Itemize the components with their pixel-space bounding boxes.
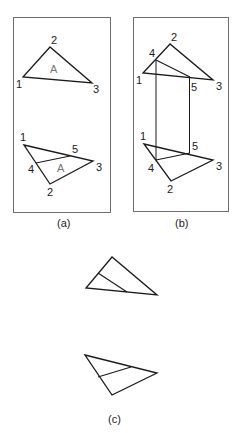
b-top-vertex-4: 4: [149, 48, 155, 59]
b-bottom-vertex-1: 1: [140, 131, 146, 142]
panel-c-bottom-triangle: [85, 355, 157, 395]
panel-b-bottom-line-4-5: [156, 153, 190, 160]
a-bottom-vertex-2: 2: [47, 187, 53, 198]
b-top-vertex-1: 1: [136, 75, 142, 86]
caption-a: (a): [57, 218, 70, 229]
a-bottom-vertex-5: 5: [72, 144, 78, 155]
panel-a-frame: [14, 18, 111, 213]
caption-b: (b): [175, 218, 188, 229]
b-top-vertex-2: 2: [171, 32, 177, 43]
caption-c: (c): [108, 414, 121, 425]
b-bottom-vertex-5: 5: [192, 141, 198, 152]
panel-a-line-4-5: [36, 156, 70, 163]
panel-b-bottom-triangle: [144, 144, 213, 181]
a-top-vertex-2: 2: [51, 35, 57, 46]
b-bottom-vertex-3: 3: [216, 161, 222, 172]
panel-b-frame: [134, 18, 229, 212]
panel-c-bottom-inner-line: [98, 367, 131, 377]
panel-c-top-triangle: [86, 257, 157, 295]
b-top-vertex-3: 3: [216, 81, 222, 92]
a-bottom-area-label: A: [57, 163, 64, 174]
b-bottom-vertex-2: 2: [167, 184, 173, 195]
a-top-area-label: A: [50, 64, 57, 75]
panel-a-top-triangle: [23, 47, 92, 83]
b-top-vertex-5: 5: [191, 82, 197, 93]
b-bottom-vertex-4: 4: [148, 163, 154, 174]
a-bottom-vertex-3: 3: [96, 162, 102, 173]
a-bottom-vertex-4: 4: [28, 164, 34, 175]
a-bottom-vertex-1: 1: [20, 132, 26, 143]
diagram-canvas: [0, 0, 239, 433]
a-top-vertex-3: 3: [93, 84, 99, 95]
a-top-vertex-1: 1: [16, 79, 22, 90]
